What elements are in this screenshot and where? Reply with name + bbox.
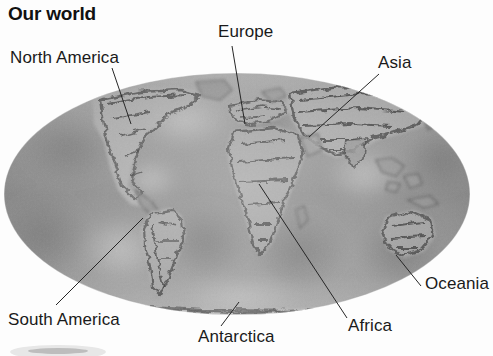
label-south-america: South America <box>8 310 120 330</box>
label-oceania: Oceania <box>425 274 489 294</box>
globe-limb-shading <box>4 73 470 315</box>
label-africa: Africa <box>348 316 392 336</box>
label-north-america: North America <box>10 48 119 68</box>
bottom-edge-artifact <box>10 345 106 356</box>
label-europe: Europe <box>218 22 273 42</box>
label-antarctica: Antarctica <box>198 327 275 347</box>
label-asia: Asia <box>378 53 411 73</box>
world-map-figure-page: Our world <box>0 0 493 356</box>
